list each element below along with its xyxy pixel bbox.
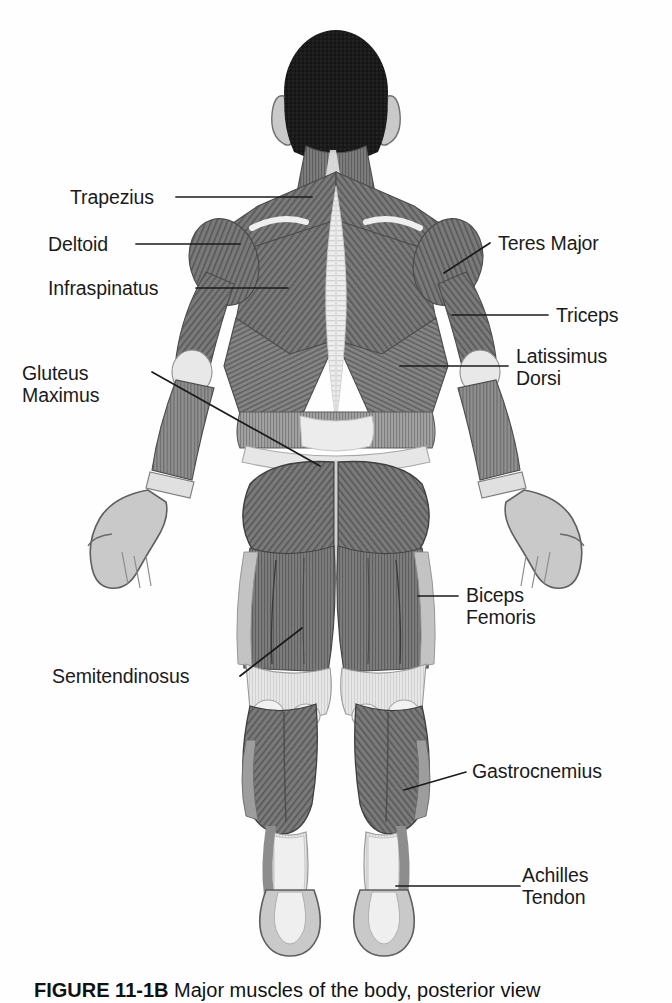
figure-caption-number: FIGURE 11-1B [34, 979, 168, 1001]
label-gastrocnemius: Gastrocnemius [472, 760, 602, 782]
label-trapezius: Trapezius [70, 186, 154, 208]
label-infraspinatus: Infraspinatus [48, 277, 158, 299]
label-gluteus-maximus: Gluteus Maximus [22, 362, 99, 406]
label-teres-major: Teres Major [498, 232, 599, 254]
figure-caption: FIGURE 11-1B Major muscles of the body, … [34, 978, 654, 1003]
label-achilles-tendon: Achilles Tendon [522, 864, 588, 908]
label-biceps-femoris: Biceps Femoris [466, 584, 536, 628]
label-semitendinosus: Semitendinosus [52, 665, 189, 687]
label-triceps: Triceps [556, 304, 619, 326]
figure-caption-text: Major muscles of the body, posterior vie… [168, 979, 540, 1001]
label-deltoid: Deltoid [48, 233, 108, 255]
label-latissimus-dorsi: Latissimus Dorsi [516, 345, 607, 389]
